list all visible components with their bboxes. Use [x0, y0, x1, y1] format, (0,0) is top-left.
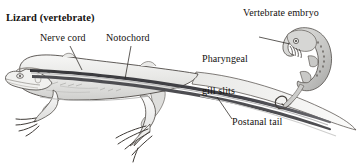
label-postanal-tail: Postanal tail — [232, 117, 282, 128]
diagram-artwork — [0, 0, 363, 167]
page-title-lizard: Lizard (vertebrate) — [6, 12, 94, 23]
label-pharyngeal-line1: Pharyngeal — [202, 54, 248, 65]
vertebrate-embryo-illustration — [275, 28, 331, 109]
embryo-limb-bud-lower — [300, 71, 311, 82]
label-pharyngeal-line2: gill slits — [202, 86, 248, 97]
label-nerve-cord: Nerve cord — [40, 33, 86, 44]
label-notochord: Notochord — [106, 33, 150, 44]
embryo-pupil — [295, 40, 297, 42]
figure-vertebrate-characteristics: Lizard (vertebrate) Nerve cord Notochord… — [0, 0, 363, 167]
embryo-limb-bud-upper — [308, 56, 318, 67]
lizard-pupil — [19, 75, 21, 77]
lizard-illustration — [5, 53, 356, 162]
label-pharyngeal-gill-slits: Pharyngeal gill slits — [202, 32, 248, 118]
label-vertebrate-embryo: Vertebrate embryo — [243, 8, 319, 19]
lizard-front-foot-claws — [16, 118, 39, 136]
